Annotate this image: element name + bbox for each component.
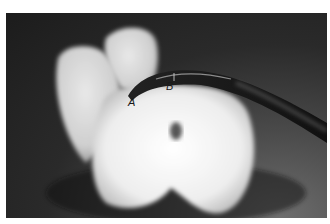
- tooth-photo: A B: [6, 13, 327, 218]
- tooth-illustration: [6, 13, 327, 218]
- label-b: B: [166, 81, 173, 92]
- label-a: A: [128, 97, 135, 108]
